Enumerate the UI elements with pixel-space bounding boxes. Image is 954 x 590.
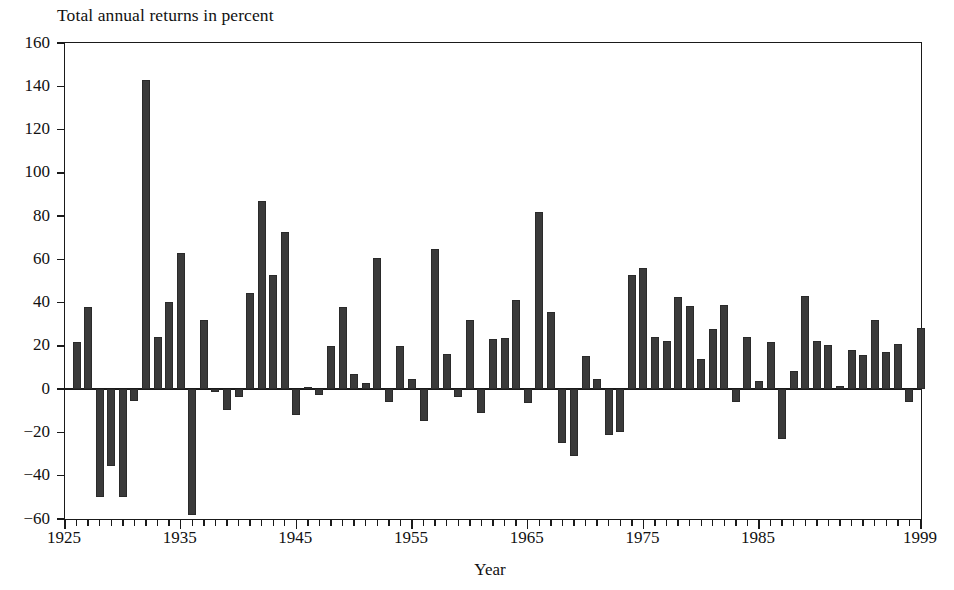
x-axis-tick	[654, 519, 655, 526]
bar	[663, 341, 671, 390]
x-axis-tick	[446, 519, 447, 526]
bar	[582, 356, 590, 390]
x-axis-tick-label: 1985	[741, 528, 775, 548]
x-axis-tick	[781, 519, 782, 526]
bar	[443, 354, 451, 389]
bar	[130, 389, 138, 401]
bar	[512, 300, 520, 389]
x-axis-tick	[816, 519, 817, 526]
bar	[408, 379, 416, 389]
bar	[385, 389, 393, 402]
bar	[801, 296, 809, 389]
x-axis-tick	[134, 519, 135, 526]
x-axis-tick	[377, 519, 378, 526]
bar	[882, 352, 890, 389]
y-axis-tick-label: −40	[23, 466, 50, 483]
y-axis-tick-label: 100	[25, 163, 51, 180]
x-axis-tick	[481, 519, 482, 526]
bar	[396, 346, 404, 389]
x-axis-tick	[793, 519, 794, 526]
x-axis-tick	[192, 519, 193, 526]
bar	[84, 307, 92, 389]
bar	[501, 338, 509, 389]
y-axis-tick-label: 40	[33, 293, 50, 310]
bar	[269, 275, 277, 390]
x-axis-tick	[469, 519, 470, 526]
y-axis-tick-label: −60	[23, 510, 50, 527]
bar	[246, 293, 254, 389]
x-axis-tick	[238, 519, 239, 526]
y-axis-tick	[57, 259, 65, 261]
y-axis-tick-label: 160	[25, 34, 51, 51]
y-axis-tick-label: −20	[23, 423, 50, 440]
y-axis-tick	[57, 172, 65, 174]
bar	[142, 80, 150, 389]
bar	[235, 389, 243, 397]
bar	[339, 307, 347, 389]
x-axis-tick	[99, 519, 100, 526]
x-axis-tick	[585, 519, 586, 526]
x-axis-tick	[515, 519, 516, 526]
x-axis-tick	[735, 519, 736, 526]
x-axis-tick	[701, 519, 702, 526]
bar	[200, 320, 208, 390]
bar	[743, 337, 751, 389]
y-axis-tick-label: 120	[25, 120, 51, 137]
bar	[790, 371, 798, 389]
bar	[489, 339, 497, 389]
x-axis-tick	[492, 519, 493, 526]
bar	[605, 389, 613, 434]
x-axis-tick	[215, 519, 216, 526]
bar	[535, 212, 543, 389]
bar	[639, 268, 647, 389]
bar	[558, 389, 566, 443]
x-axis-tick-label: 1935	[163, 528, 197, 548]
x-axis-tick	[666, 519, 667, 526]
bar	[177, 253, 185, 389]
x-axis-tick	[550, 519, 551, 526]
x-axis-tick	[573, 519, 574, 526]
bar	[211, 389, 219, 392]
bar	[848, 350, 856, 389]
y-axis-tick-label: 0	[42, 380, 51, 397]
x-axis-tick	[353, 519, 354, 526]
x-axis-tick	[157, 519, 158, 526]
x-axis-tick	[111, 519, 112, 526]
y-axis-tick	[57, 345, 65, 347]
bar	[454, 389, 462, 397]
x-axis-tick	[539, 519, 540, 526]
x-axis-tick	[620, 519, 621, 526]
bar	[732, 389, 740, 402]
x-axis-tick	[909, 519, 910, 526]
x-axis-tick	[342, 519, 343, 526]
bar	[905, 389, 913, 402]
bar	[327, 346, 335, 389]
x-axis-tick	[284, 519, 285, 526]
x-axis-tick	[805, 519, 806, 526]
x-axis-tick	[145, 519, 146, 526]
x-axis-tick	[724, 519, 725, 526]
x-axis-tick	[249, 519, 250, 526]
x-axis-tick	[677, 519, 678, 526]
x-axis-tick	[631, 519, 632, 526]
bar	[107, 389, 115, 465]
y-axis-labels: 160140120100806040200−20−40−60	[0, 42, 50, 518]
x-axis-tick	[851, 519, 852, 526]
x-axis-tick	[897, 519, 898, 526]
bar	[767, 342, 775, 390]
bar	[315, 389, 323, 394]
x-axis-tick	[608, 519, 609, 526]
x-axis-tick	[273, 519, 274, 526]
x-axis-tick	[434, 519, 435, 526]
y-axis-tick	[57, 42, 65, 44]
bar	[859, 355, 867, 389]
bar	[188, 389, 196, 514]
bar	[466, 320, 474, 389]
bar	[836, 386, 844, 389]
y-axis-tick-label: 80	[33, 207, 50, 224]
bar	[223, 389, 231, 410]
bar	[720, 305, 728, 389]
x-axis-tick-label: 1975	[625, 528, 659, 548]
bar	[894, 344, 902, 389]
x-axis-tick	[874, 519, 875, 526]
